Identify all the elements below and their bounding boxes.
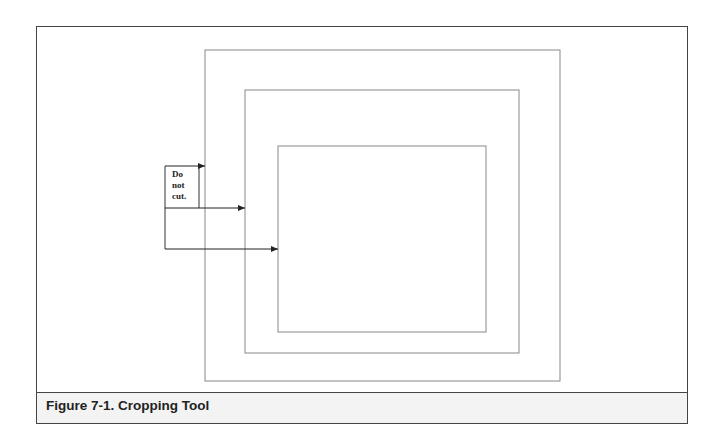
outer-square — [205, 50, 560, 381]
note-line: not — [172, 180, 186, 191]
cropping-tool-diagram — [0, 0, 722, 446]
note-line: Do — [172, 169, 186, 180]
inner-square — [278, 146, 486, 332]
middle-square — [245, 90, 519, 353]
note-line: cut. — [172, 191, 186, 202]
do-not-cut-note: Do not cut. — [172, 169, 186, 202]
